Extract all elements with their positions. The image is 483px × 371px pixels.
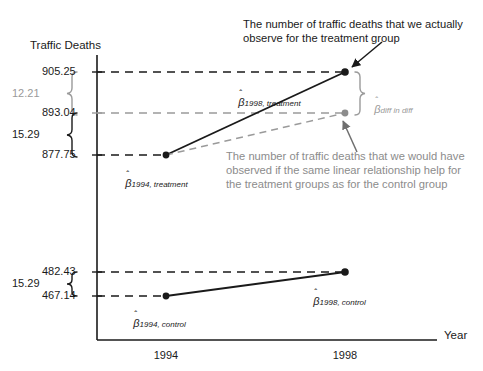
arrow-counterfactual-note [343,121,357,152]
y-label-control-1994: 467.14 [42,288,76,303]
brace-label-control-change: 15.29 [12,276,40,291]
beta-symbol: β [374,102,380,117]
beta-symbol: β [125,176,131,191]
x-tick-label-1998: 1998 [320,348,370,363]
point-label-treatment-1998: β1998, treatment [233,82,301,109]
y-label-control-1998: 482.43 [42,264,76,279]
datapoint-treatment-1998-counterfactual [342,110,349,117]
beta-subscript: 1994, treatment [132,180,188,189]
annotation-observed-line2: observe for the treatment group [243,31,400,46]
beta-subscript: diff in diff [381,106,413,115]
point-label-control-1994: β1994, control [128,303,186,330]
annotation-observed-line1: The number of traffic deaths that we act… [243,17,463,32]
annotation-counterfactual-line3: the treatment groups as for the control … [226,177,447,192]
brace-diff-in-diff-right [355,72,365,115]
datapoint-treatment-1998-observed [341,68,349,76]
y-label-treatment-1994: 877.75 [42,147,76,162]
annotation-counterfactual-line2: observed if the same linear relationship… [226,163,461,178]
brace-label-diff-in-diff: 12.21 [12,86,40,101]
annotation-counterfactual-line1: The number of traffic deaths that we wou… [226,149,465,164]
point-label-treatment-1994: β1994, treatment [120,163,188,190]
x-tick-label-1994: 1994 [141,348,191,363]
y-label-treatment-1998-observed: 905.25 [42,64,76,79]
datapoint-control-1998 [341,268,349,276]
y-label-treatment-counterfactual: 893.04 [42,105,76,120]
brace-label-treatment-change: 15.29 [12,127,40,142]
beta-symbol: β [133,316,139,331]
beta-subscript: 1994, control [140,320,186,329]
point-label-control-1998: β1998, control [308,281,366,308]
y-axis-title: Traffic Deaths [30,38,101,53]
beta-subscript: 1998, treatment [245,99,301,108]
beta-symbol: β [313,294,319,309]
point-label-diff-in-diff: βdiff in diff [369,89,413,116]
datapoint-control-1994 [163,293,170,300]
beta-subscript: 1998, control [320,298,366,307]
datapoint-treatment-1994 [163,152,170,159]
beta-symbol: β [238,95,244,110]
x-axis-title: Year [444,328,467,343]
